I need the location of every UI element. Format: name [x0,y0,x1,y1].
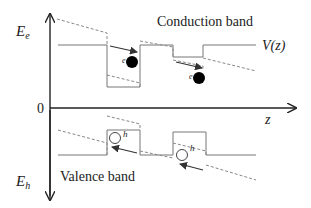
electron-1 [126,56,138,68]
conduction-band-label: Conduction band [157,14,253,29]
conduction-band-potential [58,45,256,87]
electron-2 [193,72,205,84]
valence-band-label: Valence band [60,169,135,184]
origin-label: 0 [37,101,44,116]
potential-label: V(z) [262,38,286,54]
electron-2-label: e [189,72,193,81]
valence-band-potential [58,130,256,155]
electron-1-label: e [122,56,126,65]
hole-2-label: h [190,143,195,153]
hole-2 [177,150,188,161]
z-axis-label: z [264,112,271,127]
hole-1 [110,133,121,144]
energy-hole-label: Eh [15,173,30,191]
hole-drift-arrow-1 [112,147,137,153]
energy-electron-label: Ee [15,23,30,41]
hole-drift-arrow-2 [180,164,203,170]
hole-1-label: h [123,129,128,139]
electron-drift-arrow-1 [110,46,137,52]
band-diagram: Ee Eh 0 z V(z) Conduction band Valence b… [0,0,311,208]
conduction-band-field-tilted [57,19,256,87]
